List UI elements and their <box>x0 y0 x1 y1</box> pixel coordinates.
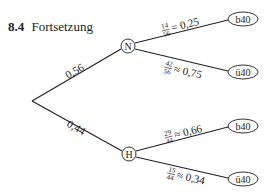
svg-text:44: 44 <box>165 136 174 146</box>
edge-label-n-u40: 42 56 ≈ 0,75 <box>162 59 203 83</box>
svg-text:0,25: 0,25 <box>179 15 201 31</box>
svg-text:=: = <box>170 20 179 33</box>
svg-text:≈: ≈ <box>176 168 185 181</box>
node-n: N <box>121 39 135 53</box>
edge-n-u40 <box>135 49 228 71</box>
leaf-n-b40-label: b40 <box>236 14 251 25</box>
leaf-n-u40-label: ü40 <box>236 67 251 78</box>
svg-text:0,66: 0,66 <box>182 122 204 138</box>
svg-text:44: 44 <box>166 173 175 182</box>
edge-label-h: 0,44 <box>65 117 88 137</box>
leaf-h-u40-label: ü40 <box>236 174 251 185</box>
edge-label-h-b40: 29 44 ≈ 0,66 <box>163 121 204 146</box>
probability-tree: 0,56 0,44 N H 14 56 = 0,25 42 56 ≈ 0,75 … <box>0 0 267 194</box>
svg-text:56: 56 <box>163 67 172 76</box>
leaf-h-u40: ü40 <box>228 172 258 186</box>
node-h: H <box>122 147 136 161</box>
leaf-n-b40: b40 <box>228 12 258 26</box>
leaf-h-b40: b40 <box>228 119 258 133</box>
node-h-label: H <box>125 149 132 160</box>
edge-label-n-b40: 14 56 = 0,25 <box>160 14 201 39</box>
svg-text:≈: ≈ <box>173 62 182 75</box>
edge-label-n: 0,56 <box>63 60 86 80</box>
node-n-label: N <box>124 41 131 52</box>
svg-text:56: 56 <box>162 29 171 39</box>
svg-text:≈: ≈ <box>173 127 182 140</box>
leaf-h-b40-label: b40 <box>236 121 251 132</box>
leaf-n-u40: ü40 <box>228 65 258 79</box>
svg-text:0,75: 0,75 <box>182 64 204 80</box>
